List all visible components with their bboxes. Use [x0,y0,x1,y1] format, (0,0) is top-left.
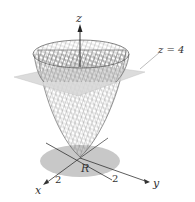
region-label: R [81,163,89,174]
plane-leader-line [140,52,160,69]
y-axis-label: y [153,178,159,189]
z-axis-label: z [76,13,82,24]
x-axis-label: x [35,185,41,196]
y-tick-label: 2 [112,174,118,184]
y-axis-arrow [144,179,150,184]
paraboloid-rim [33,40,129,68]
z-axis-arrow [78,24,83,32]
x-tick-label: 2 [55,175,61,185]
x-axis-arrow [43,179,49,185]
paraboloid-diagram [0,0,195,202]
plane-label: z = 4 [158,45,184,55]
